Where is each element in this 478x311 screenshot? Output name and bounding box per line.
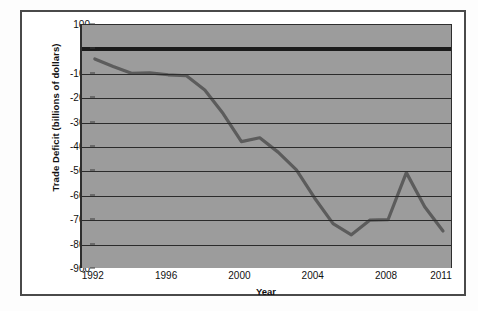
x-tick-label: 1996 xyxy=(155,270,177,281)
gridline xyxy=(82,123,451,124)
zero-line xyxy=(82,47,451,51)
y-tick-mark xyxy=(90,268,95,269)
gridline xyxy=(82,147,451,148)
y-tick-mark xyxy=(90,170,95,171)
x-tick-label: 2008 xyxy=(375,270,397,281)
plot-area xyxy=(80,24,452,268)
y-tick-mark xyxy=(90,72,95,73)
gridline xyxy=(82,74,451,75)
chart-figure: Trade Deficit (billions of dollars) 1000… xyxy=(0,0,478,311)
x-tick-label: 2011 xyxy=(430,270,452,281)
gridline xyxy=(82,245,451,246)
chart-outer-frame: Trade Deficit (billions of dollars) 1000… xyxy=(20,10,466,296)
y-tick-mark xyxy=(90,243,95,244)
gridline xyxy=(82,196,451,197)
y-tick-mark xyxy=(90,24,95,25)
gridline xyxy=(82,220,451,221)
x-tick-label: 2000 xyxy=(228,270,250,281)
gridline xyxy=(82,171,451,172)
y-tick-mark xyxy=(90,48,95,49)
y-tick-mark xyxy=(90,146,95,147)
gridline xyxy=(82,98,451,99)
x-tick-label: 2004 xyxy=(302,270,324,281)
y-tick-mark xyxy=(90,194,95,195)
x-axis-tick-labels: 199219962000200420082011 xyxy=(80,270,452,286)
x-axis-title: Year xyxy=(80,286,452,297)
y-tick-mark xyxy=(90,97,95,98)
x-tick-label: 1992 xyxy=(82,270,104,281)
y-tick-mark xyxy=(90,219,95,220)
y-tick-mark xyxy=(90,121,95,122)
